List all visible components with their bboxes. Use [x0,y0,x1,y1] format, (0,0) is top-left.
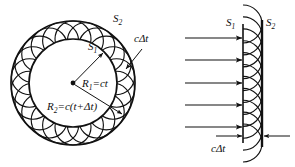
right-panel-group: S1 S2 cΔt [185,5,290,162]
gap-label-left: cΔt [134,32,149,44]
figure-canvas: S2 S1 cΔt R1=ct R2=c(t+Δt) [0,0,295,167]
secondary-wavelets-plane [243,5,262,162]
left-panel-group: S2 S1 cΔt R1=ct R2=c(t+Δt) [11,12,149,145]
incident-rays [185,38,242,127]
outer-wavefront-label: S2 [113,12,123,27]
gap-label-right: cΔt [211,142,226,154]
plane-wavefront-1-label: S1 [226,16,235,31]
plane-wavefront-2-label: S2 [266,16,276,31]
gap-leader-arrow-left [126,49,142,69]
huygens-diagram: S2 S1 cΔt R1=ct R2=c(t+Δt) [0,0,295,167]
